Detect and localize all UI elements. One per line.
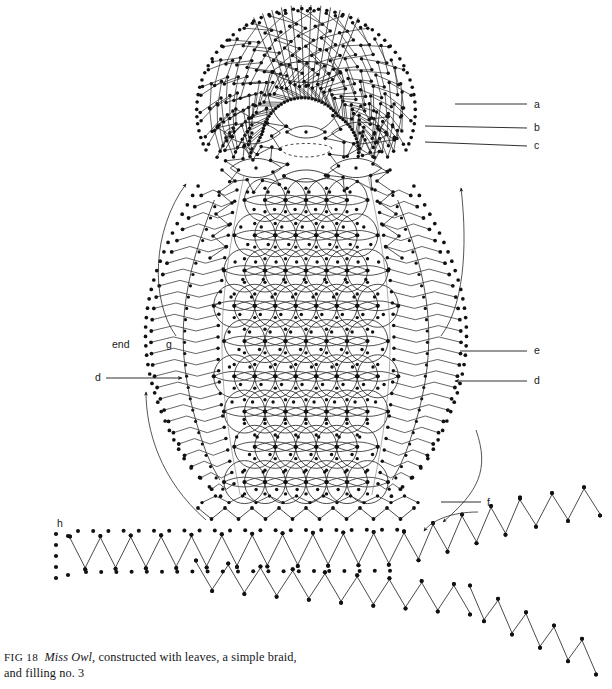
pin-dot — [272, 59, 276, 63]
pin-dot — [294, 233, 298, 237]
pin-dot — [277, 104, 281, 108]
pin-dot — [396, 205, 399, 208]
pin-dot — [594, 673, 598, 677]
pin-dot — [183, 453, 187, 457]
pin-dot — [200, 78, 204, 82]
pin-dot — [359, 88, 363, 92]
pin-dot — [263, 398, 266, 401]
pin-dot — [195, 115, 199, 119]
pin-dot — [358, 123, 362, 127]
pin-dot — [343, 57, 347, 61]
pin-dot — [312, 400, 315, 403]
pin-dot — [449, 410, 453, 414]
pin-dot — [256, 153, 260, 157]
pin-dot — [149, 288, 153, 292]
pin-dot — [263, 328, 266, 331]
pin-dot — [263, 409, 267, 413]
pin-dot — [99, 570, 103, 574]
pin-dot — [366, 351, 369, 354]
pin-dot — [263, 257, 266, 260]
pin-dot — [428, 227, 432, 231]
pin-dot — [398, 57, 402, 61]
pin-dot — [146, 363, 150, 367]
pin-dot — [388, 569, 392, 573]
pin-dot — [213, 205, 216, 208]
pin-dot — [254, 104, 258, 108]
pin-dot — [122, 529, 126, 533]
pin-dot — [387, 267, 391, 271]
pin-dot — [357, 114, 361, 118]
pin-dot — [215, 156, 219, 160]
thread-path — [520, 489, 600, 525]
pin-dot — [194, 262, 197, 265]
pin-dot — [187, 296, 190, 299]
pin-dot — [370, 68, 374, 72]
pin-dot — [224, 159, 228, 163]
pin-dot — [317, 7, 321, 11]
pin-dot — [399, 82, 403, 86]
pin-dot — [250, 131, 253, 134]
pin-dot — [222, 339, 226, 343]
pin-dot — [207, 68, 211, 72]
pin-dot — [373, 132, 377, 136]
pin-dot — [351, 108, 355, 112]
pin-dot — [198, 85, 202, 89]
pin-dot — [361, 130, 365, 134]
pin-dot — [224, 437, 228, 441]
pin-dot — [233, 363, 236, 366]
pin-dot — [163, 419, 167, 423]
pin-dot — [191, 194, 195, 198]
pin-dot — [187, 216, 191, 220]
pin-dot — [268, 494, 271, 497]
pin-dot — [390, 105, 394, 109]
pin-dot — [261, 179, 265, 183]
pin-dot — [409, 136, 413, 140]
pin-dot — [285, 125, 289, 129]
thread-path — [404, 499, 520, 559]
pin-dot — [345, 198, 348, 201]
pin-dot — [386, 115, 390, 119]
pin-dot — [243, 144, 247, 148]
pin-dot — [388, 488, 391, 491]
pin-dot — [370, 79, 374, 83]
pin-dot — [463, 306, 467, 310]
pin-dot — [281, 501, 284, 504]
pin-dot — [424, 307, 427, 310]
pin-dot — [359, 26, 363, 30]
pin-dot — [150, 382, 154, 386]
pin-dot — [258, 528, 262, 532]
pin-dot — [386, 155, 390, 159]
pin-dot — [243, 328, 246, 331]
pin-dot — [378, 201, 382, 205]
pin-dot — [335, 304, 339, 308]
pin-dot — [232, 130, 236, 134]
pin-dot — [322, 494, 325, 497]
pin-dot — [212, 374, 216, 378]
pin-dot — [325, 328, 328, 331]
pin-dot — [207, 142, 211, 146]
pin-dot — [54, 554, 58, 558]
pin-dot — [393, 66, 397, 70]
pin-dot — [328, 88, 332, 92]
pin-dot — [400, 90, 404, 94]
pin-dot — [170, 250, 174, 254]
pin-dot — [246, 243, 249, 246]
pin-dot — [352, 131, 356, 135]
pin-dot — [319, 348, 322, 351]
pin-dot — [403, 494, 406, 497]
pin-dot — [241, 44, 245, 48]
pin-dot — [231, 33, 235, 37]
pin-dot — [316, 488, 319, 491]
pin-dot — [200, 501, 203, 504]
pin-dot — [362, 225, 365, 228]
pin-dot — [412, 93, 416, 97]
pin-dot — [129, 534, 133, 538]
label-leader-b — [425, 126, 527, 128]
pin-dot — [345, 398, 348, 401]
pin-dot — [252, 208, 255, 211]
pin-dot — [294, 363, 297, 366]
pin-dot — [258, 102, 262, 106]
pin-dot — [285, 87, 289, 91]
pin-dot — [371, 28, 375, 32]
pin-dot — [263, 281, 266, 284]
